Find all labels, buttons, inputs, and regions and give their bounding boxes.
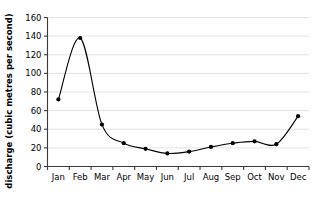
y-tick-label: 0	[36, 162, 41, 172]
discharge-line-chart: discharge (cubic metres per second) 0204…	[0, 0, 316, 202]
data-point	[296, 114, 300, 118]
data-point	[78, 36, 82, 40]
y-tick-label: 160	[25, 13, 41, 23]
y-tick-label: 140	[25, 31, 41, 41]
y-tick-label: 20	[31, 143, 42, 153]
data-point	[187, 150, 191, 154]
x-tick-label: Mar	[94, 172, 111, 182]
data-point	[209, 145, 213, 149]
data-point	[143, 147, 147, 151]
x-tick-label: Sep	[225, 172, 241, 182]
y-tick-label: 80	[31, 87, 42, 97]
x-tick-label: Apr	[116, 172, 131, 182]
x-axis-labels-group: JanFebMarAprMayJunJulAugSepOctNovDec	[51, 172, 307, 182]
x-tick-label: Jul	[183, 172, 194, 182]
x-tick-label: Feb	[73, 172, 88, 182]
x-tick-label: Jan	[51, 172, 65, 182]
data-point	[122, 141, 126, 145]
data-markers-group	[56, 36, 300, 156]
x-tick-label: Jun	[160, 172, 174, 182]
data-point	[231, 141, 235, 145]
y-tick-label: 120	[25, 50, 41, 60]
y-tick-group: 020406080100120140160	[25, 13, 47, 172]
data-point	[274, 142, 278, 146]
x-tick-label: Oct	[247, 172, 262, 182]
gridlines-group	[48, 18, 310, 167]
x-tick-label: Nov	[268, 172, 285, 182]
data-point	[165, 151, 169, 155]
data-point	[252, 139, 256, 143]
y-tick-label: 100	[25, 68, 41, 78]
x-tick-label: May	[137, 172, 155, 182]
y-tick-label: 40	[31, 124, 42, 134]
y-tick-label: 60	[31, 106, 42, 116]
data-point	[56, 97, 60, 101]
chart-canvas: 020406080100120140160 JanFebMarAprMayJun…	[0, 0, 316, 202]
x-tick-label: Aug	[203, 172, 220, 182]
data-point	[100, 122, 104, 126]
x-tick-label: Dec	[290, 172, 307, 182]
